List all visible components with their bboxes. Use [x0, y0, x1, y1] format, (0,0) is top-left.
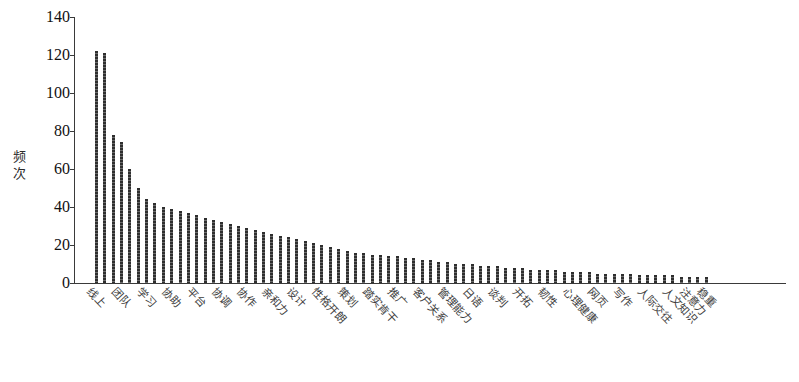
bar: [162, 207, 165, 283]
bar: [237, 226, 240, 283]
bar: [487, 266, 490, 283]
y-tick-label: 40: [32, 199, 70, 215]
x-tick-label: 写作: [611, 286, 634, 310]
y-tick-label: 20: [32, 237, 70, 253]
bar: [270, 234, 273, 283]
x-tick-label: 学习: [135, 286, 158, 310]
bar: [128, 169, 131, 283]
bar: [588, 272, 591, 283]
x-tick-label: 开拓: [511, 286, 534, 310]
bar: [404, 258, 407, 283]
bar: [688, 277, 691, 283]
bar: [646, 275, 649, 283]
bar: [179, 211, 182, 283]
bar: [538, 270, 541, 283]
y-tick-mark: [70, 93, 74, 94]
y-tick-mark: [70, 131, 74, 132]
bar: [153, 203, 156, 283]
bar: [245, 228, 248, 283]
x-tick-label: 平台: [185, 286, 208, 310]
bar: [663, 275, 666, 283]
bar: [421, 260, 424, 283]
bar: [279, 236, 282, 284]
bar-series: [74, 17, 786, 283]
x-tick-label: 协作: [235, 286, 258, 310]
bar-chart: 频次 020406080100120140 线上团队学习协助平台协调协作亲和力设…: [0, 0, 799, 382]
bar: [412, 258, 415, 283]
bar: [496, 266, 499, 283]
x-tick-label: 团队: [110, 286, 133, 310]
bar: [195, 215, 198, 283]
bar: [654, 275, 657, 283]
bar: [379, 255, 382, 284]
bar: [295, 239, 298, 283]
bar: [554, 270, 557, 283]
bar: [137, 188, 140, 283]
bar: [262, 232, 265, 283]
bar: [579, 272, 582, 283]
bar: [387, 256, 390, 283]
bar: [337, 249, 340, 283]
y-axis-tick-labels: 020406080100120140: [30, 0, 70, 382]
bar: [371, 255, 374, 284]
bar: [629, 274, 632, 284]
bar: [396, 256, 399, 283]
bar: [437, 262, 440, 283]
bar: [346, 251, 349, 283]
bar: [563, 272, 566, 283]
bar: [212, 220, 215, 283]
bar: [354, 253, 357, 283]
bar: [229, 224, 232, 283]
bar: [429, 260, 432, 283]
x-tick-label: 谈判: [486, 286, 509, 310]
bar: [504, 268, 507, 283]
y-tick-label: 60: [32, 161, 70, 177]
y-tick-label: 140: [32, 9, 70, 25]
x-tick-label: 线上: [85, 286, 108, 310]
bar: [362, 253, 365, 283]
bar: [112, 135, 115, 283]
y-tick-label: 100: [32, 85, 70, 101]
bar: [529, 270, 532, 283]
bar: [103, 53, 106, 283]
x-tick-label: 韧性: [536, 286, 559, 310]
y-tick-mark: [70, 283, 74, 284]
bar: [705, 277, 708, 283]
y-tick-label: 0: [32, 275, 70, 291]
x-axis-tick-labels: 线上团队学习协助平台协调协作亲和力设计性格开朗策划踏实肯干推广客户关系管理能力日…: [74, 286, 786, 382]
bar: [312, 243, 315, 283]
bar: [454, 264, 457, 283]
plot-area: [74, 17, 786, 283]
bar: [479, 266, 482, 283]
y-tick-mark: [70, 207, 74, 208]
bar: [596, 274, 599, 284]
bar: [170, 209, 173, 283]
bar: [254, 230, 257, 283]
y-axis-title: 频次: [8, 148, 30, 182]
y-tick-mark: [70, 55, 74, 56]
bar: [671, 275, 674, 283]
bar: [446, 262, 449, 283]
x-tick-label: 协调: [210, 286, 233, 310]
bar: [521, 268, 524, 283]
bar: [638, 275, 641, 283]
y-tick-mark: [70, 169, 74, 170]
y-tick-mark: [70, 245, 74, 246]
bar: [604, 274, 607, 284]
bar: [145, 199, 148, 283]
bar: [187, 213, 190, 283]
bar: [95, 51, 98, 283]
bar: [546, 270, 549, 283]
bar: [120, 142, 123, 283]
bar: [513, 268, 516, 283]
bar: [571, 272, 574, 283]
bar: [621, 274, 624, 284]
bar: [471, 264, 474, 283]
y-tick-mark: [70, 17, 74, 18]
bar: [462, 264, 465, 283]
bar: [329, 247, 332, 283]
bar: [304, 241, 307, 283]
bar: [220, 222, 223, 283]
y-tick-label: 120: [32, 47, 70, 63]
x-axis-line: [74, 283, 786, 284]
